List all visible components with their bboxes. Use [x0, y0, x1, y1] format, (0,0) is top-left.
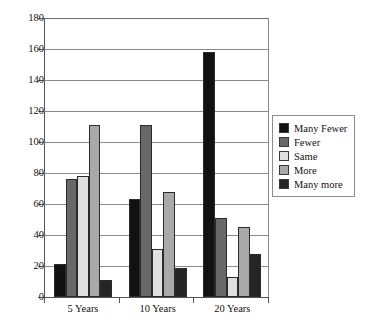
bar: [203, 52, 215, 297]
legend-item: More: [279, 163, 347, 177]
bar: [140, 125, 152, 297]
bar: [54, 264, 66, 297]
bar: [227, 277, 239, 297]
legend-item: Fewer: [279, 135, 347, 149]
x-axis-group-label: 5 Years: [68, 303, 99, 315]
plot-right-border: [268, 18, 269, 297]
legend-swatch-icon: [279, 123, 289, 133]
bar: [163, 192, 175, 297]
y-tick-label: 120: [10, 106, 44, 116]
legend-item-label: More: [294, 165, 317, 176]
legend-item: Many more: [279, 177, 347, 191]
legend-item-label: Many more: [294, 179, 343, 190]
legend: Many FewerFewerSameMoreMany more: [272, 115, 355, 197]
bar: [238, 227, 250, 297]
bar: [175, 268, 187, 297]
y-tick-label: 160: [10, 44, 44, 54]
legend-swatch-icon: [279, 151, 289, 161]
legend-item-label: Same: [294, 151, 317, 162]
legend-swatch-icon: [279, 179, 289, 189]
x-tick-mark: [44, 297, 45, 303]
bar: [129, 199, 141, 297]
legend-item: Same: [279, 149, 347, 163]
bar: [250, 254, 262, 297]
y-tick-label: 100: [10, 137, 44, 147]
y-tick-label: 60: [10, 199, 44, 209]
x-tick-mark: [193, 297, 194, 303]
bar: [152, 249, 164, 297]
bar: [215, 218, 227, 297]
x-tick-mark: [268, 297, 269, 303]
bar: [66, 179, 78, 297]
y-tick-label: 140: [10, 75, 44, 85]
bar: [100, 280, 112, 297]
x-axis-group-label: 20 Years: [214, 303, 250, 315]
legend-swatch-icon: [279, 137, 289, 147]
y-tick-label: 0: [10, 292, 44, 302]
legend-swatch-icon: [279, 165, 289, 175]
y-tick-label: 80: [10, 168, 44, 178]
x-tick-mark: [119, 297, 120, 303]
bar-chart: 020406080100120140160180 5 Years10 Years…: [0, 0, 375, 325]
y-tick-label: 40: [10, 230, 44, 240]
y-tick-label: 20: [10, 261, 44, 271]
x-axis-group-label: 10 Years: [140, 303, 176, 315]
bar: [77, 176, 89, 297]
bars-layer: [44, 18, 268, 297]
legend-item: Many Fewer: [279, 121, 347, 135]
y-tick-label: 180: [10, 13, 44, 23]
legend-item-label: Many Fewer: [294, 123, 347, 134]
bar: [89, 125, 101, 297]
legend-item-label: Fewer: [294, 137, 320, 148]
